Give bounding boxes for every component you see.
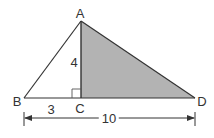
point-label-d: D <box>197 95 206 108</box>
point-label-a: A <box>76 7 85 20</box>
diagram-canvas: A B C D 3 4 10 <box>0 0 214 138</box>
length-label-ac: 4 <box>70 56 77 69</box>
right-angle-marker <box>72 89 81 98</box>
length-label-bd: 10 <box>99 112 119 125</box>
point-label-c: C <box>75 102 84 115</box>
length-label-bc: 3 <box>47 103 54 116</box>
point-label-b: B <box>13 95 22 108</box>
